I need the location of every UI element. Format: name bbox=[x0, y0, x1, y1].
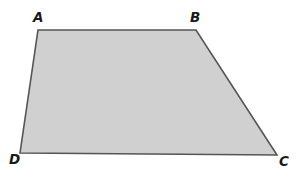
vertex-label-a: A bbox=[33, 11, 43, 25]
vertex-label-c: C bbox=[279, 155, 289, 169]
vertex-label-d: D bbox=[9, 153, 20, 167]
trapezoid-diagram bbox=[0, 0, 300, 173]
vertex-label-b: B bbox=[190, 11, 200, 25]
geometry-figure-canvas: A B C D bbox=[0, 0, 300, 173]
trapezoid-shape bbox=[20, 30, 277, 155]
